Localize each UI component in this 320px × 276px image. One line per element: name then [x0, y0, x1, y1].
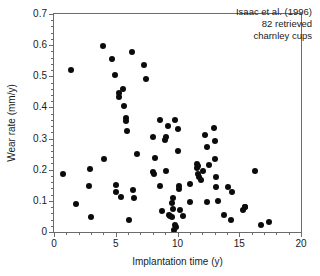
y-axis-tick-label: 0.6	[33, 40, 47, 50]
scatter-point	[170, 206, 176, 212]
y-axis-tick	[49, 201, 54, 202]
scatter-point	[101, 156, 107, 162]
scatter-point	[187, 181, 193, 187]
scatter-point	[150, 134, 156, 140]
x-axis-tick	[301, 232, 302, 237]
y-axis-minor-tick	[51, 114, 54, 115]
x-axis-minor-tick	[190, 232, 191, 235]
x-axis-tick-label: 0	[51, 239, 57, 249]
scatter-point	[159, 208, 165, 214]
annotation-line-3: charnley cups	[236, 30, 312, 42]
y-axis-tick	[49, 45, 54, 46]
y-axis-tick-label: 0	[41, 227, 47, 237]
plot-area: 00.10.20.30.40.50.60.705101520	[53, 13, 302, 233]
scatter-point	[109, 56, 115, 62]
scatter-chart-figure: Wear rate (mm/y) 00.10.20.30.40.50.60.70…	[0, 0, 320, 276]
scatter-point	[175, 148, 181, 154]
y-axis-minor-tick	[51, 151, 54, 152]
x-axis-tick-label: 20	[295, 239, 306, 249]
scatter-point	[211, 125, 217, 131]
x-axis-minor-tick	[128, 232, 129, 235]
x-axis-tick-label: 10	[172, 239, 183, 249]
y-axis-minor-tick	[51, 95, 54, 96]
scatter-point	[143, 76, 149, 82]
scatter-point	[73, 201, 79, 207]
scatter-point	[204, 144, 210, 150]
scatter-points-layer	[54, 14, 301, 232]
y-axis-minor-tick	[51, 101, 54, 102]
scatter-point	[165, 123, 171, 129]
x-axis-minor-tick	[252, 232, 253, 235]
y-axis-minor-tick	[51, 83, 54, 84]
scatter-point	[266, 219, 272, 225]
y-axis-tick-label: 0.7	[33, 9, 47, 19]
y-axis-minor-tick	[51, 195, 54, 196]
y-axis-minor-tick	[51, 58, 54, 59]
y-axis-minor-tick	[51, 207, 54, 208]
y-axis-minor-tick	[51, 120, 54, 121]
y-axis-minor-tick	[51, 163, 54, 164]
x-axis-minor-tick	[202, 232, 203, 235]
scatter-point	[206, 162, 212, 168]
x-axis-tick	[239, 232, 240, 237]
x-axis-title: Implantation time (y)	[53, 256, 302, 267]
x-axis-minor-tick	[264, 232, 265, 235]
scatter-point	[204, 199, 210, 205]
y-axis-tick	[49, 139, 54, 140]
scatter-point	[202, 132, 208, 138]
scatter-point	[123, 118, 129, 124]
scatter-point	[120, 86, 126, 92]
y-axis-minor-tick	[51, 64, 54, 65]
scatter-point	[177, 207, 183, 213]
annotation-line-1: Isaac et al. (1996)	[236, 6, 312, 18]
scatter-point	[229, 189, 235, 195]
x-axis-minor-tick	[289, 232, 290, 235]
scatter-point	[86, 183, 92, 189]
y-axis-minor-tick	[51, 89, 54, 90]
scatter-point	[258, 222, 264, 228]
y-axis-tick-label: 0.3	[33, 134, 47, 144]
scatter-point	[170, 195, 176, 201]
scatter-point	[200, 168, 206, 174]
y-axis-tick-label: 0.5	[33, 71, 47, 81]
y-axis-minor-tick	[51, 176, 54, 177]
x-axis-tick	[54, 232, 55, 237]
y-axis-tick-label: 0.4	[33, 102, 47, 112]
scatter-point	[134, 151, 140, 157]
scatter-point	[121, 103, 127, 109]
scatter-point	[213, 174, 219, 180]
scatter-point	[172, 117, 178, 123]
y-axis-minor-tick	[51, 220, 54, 221]
scatter-point	[195, 163, 201, 169]
y-axis-minor-tick	[51, 132, 54, 133]
x-axis-minor-tick	[79, 232, 80, 235]
y-axis-minor-tick	[51, 33, 54, 34]
y-axis-minor-tick	[51, 182, 54, 183]
x-axis-minor-tick	[103, 232, 104, 235]
x-axis-minor-tick	[140, 232, 141, 235]
x-axis-tick-label: 15	[234, 239, 245, 249]
scatter-point	[163, 168, 169, 174]
x-axis-minor-tick	[227, 232, 228, 235]
x-axis-tick	[178, 232, 179, 237]
scatter-point	[151, 171, 157, 177]
scatter-point	[212, 156, 218, 162]
y-axis-minor-tick	[51, 39, 54, 40]
scatter-point	[100, 43, 106, 49]
scatter-point	[152, 155, 158, 161]
scatter-point	[68, 67, 74, 73]
y-axis-minor-tick	[51, 145, 54, 146]
scatter-point	[252, 168, 258, 174]
scatter-point	[131, 195, 137, 201]
y-axis-minor-tick	[51, 51, 54, 52]
scatter-point	[118, 194, 124, 200]
scatter-point	[215, 198, 221, 204]
chart-annotation: Isaac et al. (1996) 82 retrieved charnle…	[236, 6, 312, 42]
x-axis-minor-tick	[153, 232, 154, 235]
scatter-point	[169, 214, 175, 220]
y-axis-minor-tick	[51, 126, 54, 127]
scatter-point	[157, 117, 163, 123]
scatter-point	[228, 217, 234, 223]
scatter-point	[212, 138, 218, 144]
x-axis-minor-tick	[165, 232, 166, 235]
